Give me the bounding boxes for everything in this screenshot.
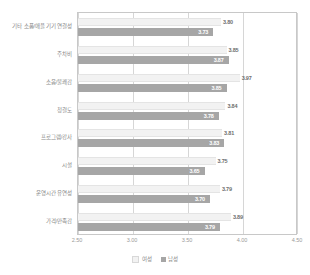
- category-label: 기타 소품/애플 기기 연결성: [12, 22, 72, 30]
- legend-item-series-b[interactable]: 남성: [161, 255, 178, 263]
- legend-label: 남성: [168, 255, 178, 263]
- bar-series-a: [78, 213, 231, 221]
- bar-series-a: [78, 102, 225, 110]
- bar-value-label: 3.83: [209, 140, 219, 146]
- legend-swatch-icon: [161, 257, 166, 262]
- bar-value-label: 3.78: [204, 113, 214, 119]
- bar-value-label: 3.75: [218, 158, 228, 164]
- bar-value-label: 3.79: [205, 224, 215, 230]
- chart-category-group: 3.853.87: [78, 46, 296, 64]
- x-axis-tick-labels: 2.503.003.504.004.50: [77, 237, 297, 249]
- bar-series-b: [78, 139, 224, 147]
- legend-label: 여성: [142, 255, 152, 263]
- chart-category-group: 3.843.78: [78, 102, 296, 120]
- legend-swatch-icon: [132, 256, 139, 263]
- chart-category-group: 3.813.83: [78, 129, 296, 147]
- plot-area: 3.803.733.853.873.973.853.843.783.813.83…: [77, 12, 297, 235]
- chart-legend: 여성남성: [0, 255, 310, 263]
- bar-series-b: [78, 195, 210, 203]
- bar-value-label: 3.84: [227, 103, 237, 109]
- category-label: 프로그램/강사: [41, 133, 72, 141]
- category-axis-labels: 기타 소품/애플 기기 연결성주차비소음/불쾌감청결도프로그램/강사시설운영시간…: [0, 12, 72, 235]
- category-label: 가격/만족감: [46, 217, 72, 225]
- bar-value-label: 3.87: [214, 57, 224, 63]
- bar-value-label: 3.85: [229, 47, 239, 53]
- category-label: 운영시간 유연성: [36, 189, 72, 197]
- bar-value-label: 3.89: [233, 214, 243, 220]
- x-tick-label: 2.50: [72, 237, 83, 243]
- bar-series-b: [78, 223, 220, 231]
- category-label: 주차비: [57, 50, 72, 58]
- x-tick-label: 4.50: [292, 237, 303, 243]
- bar-series-a: [78, 46, 227, 54]
- gridline: [297, 13, 298, 234]
- chart-category-group: 3.753.65: [78, 157, 296, 175]
- bar-value-label: 3.81: [224, 130, 234, 136]
- bar-value-label: 3.97: [242, 75, 252, 81]
- bar-series-b: [78, 56, 229, 64]
- bar-series-b: [78, 167, 205, 175]
- chart-category-group: 3.893.79: [78, 213, 296, 231]
- bar-series-a: [78, 74, 240, 82]
- bar-value-label: 3.73: [198, 29, 208, 35]
- bar-chart: 기타 소품/애플 기기 연결성주차비소음/불쾌감청결도프로그램/강사시설운영시간…: [0, 0, 310, 275]
- chart-category-group: 3.793.70: [78, 185, 296, 203]
- bar-series-a: [78, 129, 222, 137]
- bar-value-label: 3.65: [190, 168, 200, 174]
- bar-value-label: 3.85: [212, 85, 222, 91]
- bar-value-label: 3.79: [222, 186, 232, 192]
- category-label: 소음/불쾌감: [46, 78, 72, 86]
- x-tick-label: 3.00: [127, 237, 138, 243]
- bar-series-a: [78, 18, 221, 26]
- chart-category-group: 3.973.85: [78, 74, 296, 92]
- bar-value-label: 3.80: [223, 19, 233, 25]
- legend-item-series-a[interactable]: 여성: [132, 255, 151, 263]
- bar-value-label: 3.70: [195, 196, 205, 202]
- x-tick-label: 4.00: [237, 237, 248, 243]
- x-tick-label: 3.50: [182, 237, 193, 243]
- bar-series-b: [78, 84, 227, 92]
- bar-series-a: [78, 185, 220, 193]
- bar-series-b: [78, 28, 213, 36]
- bar-series-a: [78, 157, 216, 165]
- category-label: 청결도: [57, 106, 72, 114]
- bar-series-b: [78, 112, 219, 120]
- chart-category-group: 3.803.73: [78, 18, 296, 36]
- category-label: 시설: [62, 161, 72, 169]
